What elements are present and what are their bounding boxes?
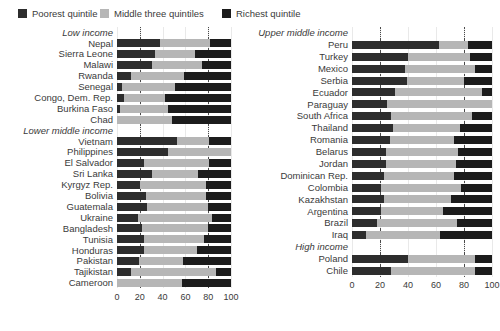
- stacked-bar[interactable]: [352, 100, 492, 108]
- stacked-bar[interactable]: [352, 160, 492, 168]
- stacked-bar[interactable]: [352, 184, 492, 192]
- chart-row: Peru: [246, 39, 492, 51]
- stacked-bar[interactable]: [117, 268, 231, 276]
- stacked-bar[interactable]: [117, 61, 231, 69]
- plot-cell: [117, 245, 231, 256]
- bar-segment-poorest: [117, 94, 124, 102]
- stacked-bar[interactable]: [117, 159, 231, 167]
- stacked-bar[interactable]: [117, 83, 231, 91]
- stacked-bar[interactable]: [352, 207, 492, 215]
- stacked-bar[interactable]: [352, 136, 492, 144]
- stacked-bar[interactable]: [352, 267, 492, 275]
- stacked-bar[interactable]: [117, 203, 231, 211]
- stacked-bar[interactable]: [352, 88, 492, 96]
- bar-segment-poorest: [117, 50, 155, 58]
- axis-tick-label: 60: [180, 292, 190, 302]
- stacked-bar[interactable]: [352, 124, 492, 132]
- stacked-bar[interactable]: [117, 72, 231, 80]
- stacked-bar[interactable]: [117, 181, 231, 189]
- bar-segment-middle: [144, 159, 209, 167]
- stacked-bar[interactable]: [117, 137, 231, 145]
- stacked-bar[interactable]: [352, 65, 492, 73]
- plot-cell: [117, 103, 231, 114]
- stacked-bar[interactable]: [117, 105, 231, 113]
- stacked-bar[interactable]: [117, 257, 231, 265]
- stacked-bar[interactable]: [352, 148, 492, 156]
- plot-cell: [117, 223, 231, 234]
- plot-cell: [352, 241, 492, 253]
- gridline: [492, 265, 493, 277]
- stacked-bar[interactable]: [117, 214, 231, 222]
- stacked-bar[interactable]: [352, 255, 492, 263]
- stacked-bar[interactable]: [117, 235, 231, 243]
- legend-item[interactable]: Richest quintile: [222, 8, 300, 19]
- bar-segment-poorest: [352, 124, 393, 132]
- legend-item[interactable]: Middle three quintiles: [100, 8, 204, 19]
- stacked-bar[interactable]: [352, 77, 492, 85]
- country-label: Turkey: [246, 52, 352, 62]
- bar-segment-richest: [457, 219, 492, 227]
- square-swatch-icon: [18, 9, 27, 18]
- bar-segment-middle: [124, 94, 165, 102]
- bar-segment-middle: [117, 279, 182, 287]
- stacked-bar[interactable]: [117, 246, 231, 254]
- bar-segment-poorest: [117, 203, 147, 211]
- bar-segment-richest: [183, 257, 231, 265]
- stacked-bar[interactable]: [352, 53, 492, 61]
- legend-item[interactable]: Poorest quintile: [18, 8, 97, 19]
- stacked-bar[interactable]: [117, 170, 231, 178]
- gridline: [231, 71, 232, 82]
- chart-row: Guatemala: [0, 201, 246, 212]
- plot-cell: [117, 212, 231, 223]
- bar-segment-richest: [208, 203, 231, 211]
- country-label: Tunisia: [0, 235, 117, 245]
- chart-row: Thailand: [246, 122, 492, 134]
- gridline: [231, 245, 232, 256]
- bar-segment-richest: [206, 192, 231, 200]
- stacked-bar[interactable]: [117, 148, 231, 156]
- stacked-bar[interactable]: [352, 231, 492, 239]
- bar-segment-richest: [168, 105, 231, 113]
- plot-cell: [352, 170, 492, 182]
- gridline: [231, 212, 232, 223]
- chart-row: Cameroon: [0, 277, 246, 288]
- stacked-bar[interactable]: [352, 195, 492, 203]
- bar-segment-middle: [177, 137, 209, 145]
- bar-segment-richest: [197, 246, 231, 254]
- stacked-bar[interactable]: [352, 41, 492, 49]
- bar-segment-poorest: [352, 148, 386, 156]
- stacked-bar[interactable]: [352, 219, 492, 227]
- country-label: Philippines: [0, 147, 117, 157]
- bar-segment-middle: [122, 83, 176, 91]
- group-heading-row: Lower middle income: [0, 125, 246, 136]
- group-heading-label: Low income: [0, 28, 117, 38]
- stacked-bar[interactable]: [117, 39, 231, 47]
- chart-row: Iraq: [246, 229, 492, 241]
- gridline: [492, 134, 493, 146]
- stacked-bar[interactable]: [117, 94, 231, 102]
- stacked-bar[interactable]: [117, 224, 231, 232]
- stacked-bar[interactable]: [352, 112, 492, 120]
- bar-segment-poorest: [352, 77, 407, 85]
- plot-cell: [117, 234, 231, 245]
- bar-segment-poorest: [117, 72, 131, 80]
- country-label: Brazil: [246, 218, 352, 228]
- chart-row: Bolivia: [0, 190, 246, 201]
- chart-row: Philippines: [0, 147, 246, 158]
- chart-row: Rwanda: [0, 71, 246, 82]
- gridline: [231, 277, 232, 288]
- bar-segment-poorest: [352, 100, 387, 108]
- stacked-bar[interactable]: [117, 116, 231, 124]
- stacked-bar[interactable]: [352, 172, 492, 180]
- chart-row: Honduras: [0, 245, 246, 256]
- chart-row: Congo, Dem. Rep.: [0, 92, 246, 103]
- stacked-bar[interactable]: [117, 279, 231, 287]
- reference-line: [208, 27, 209, 38]
- gridline: [492, 229, 493, 241]
- stacked-bar[interactable]: [117, 192, 231, 200]
- panel-left-rows: Low incomeNepalSierra LeoneMalawiRwandaS…: [0, 27, 246, 288]
- stacked-bar[interactable]: [117, 50, 231, 58]
- country-label: Thailand: [246, 123, 352, 133]
- bar-segment-middle: [408, 53, 470, 61]
- gridline: [436, 27, 437, 39]
